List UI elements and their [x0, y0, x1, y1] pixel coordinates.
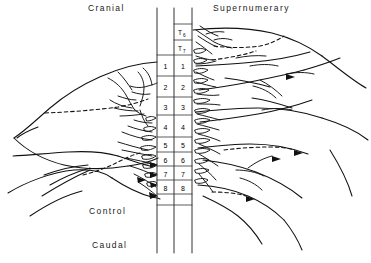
segment-number-left-4: 4 — [164, 124, 168, 131]
label-supernumerary: Supernumerary — [213, 3, 290, 13]
segment-number-left-8: 8 — [164, 185, 168, 192]
figure-background — [0, 0, 371, 263]
segment-number-left-1: 1 — [164, 63, 168, 70]
vertebra-label-T6-subscript: 6 — [183, 33, 186, 38]
label-caudal: Caudal — [92, 240, 127, 250]
segment-number-right-8: 8 — [181, 185, 185, 192]
segment-number-right-2: 2 — [181, 84, 185, 91]
segment-number-left-7: 7 — [164, 171, 168, 178]
vertebra-label-T6-letter: T — [178, 29, 182, 36]
segment-number-right-3: 3 — [181, 104, 185, 111]
label-cranial: Cranial — [88, 3, 125, 13]
vertebra-label-T7-letter: T — [178, 45, 182, 52]
segment-number-left-6: 6 — [164, 157, 168, 164]
segment-number-left-3: 3 — [164, 104, 168, 111]
segment-number-right-4: 4 — [181, 124, 185, 131]
vertebra-label-T7-subscript: 7 — [183, 49, 186, 54]
segment-number-right-1: 1 — [181, 63, 185, 70]
segment-number-right-7: 7 — [181, 171, 185, 178]
segment-number-left-2: 2 — [164, 84, 168, 91]
segment-number-left-5: 5 — [164, 142, 168, 149]
segment-number-right-5: 5 — [181, 142, 185, 149]
label-control: Control — [89, 206, 126, 216]
segment-number-right-6: 6 — [181, 157, 185, 164]
anatomical-figure: T 6 T 7 1 2 3 4 5 6 7 8 1 2 3 4 5 6 7 8 — [0, 0, 371, 263]
